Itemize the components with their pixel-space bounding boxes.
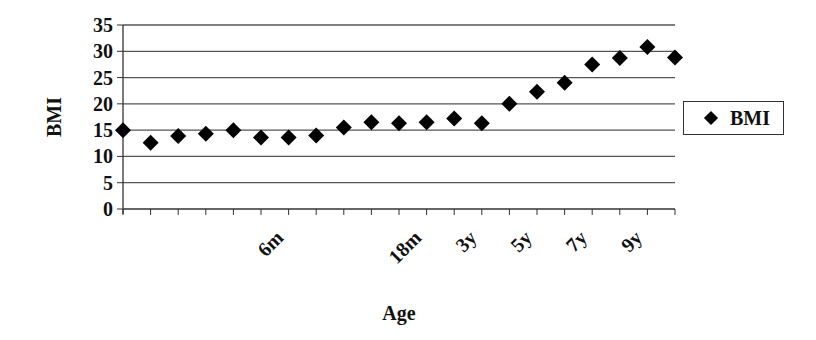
y-tick-label: 25 — [93, 67, 113, 89]
x-tick-label: 18m — [384, 226, 426, 268]
data-point-diamond — [612, 50, 628, 66]
data-point-diamond — [198, 126, 214, 142]
y-axis-title: BMI — [43, 97, 65, 137]
data-point-diamond — [419, 114, 435, 130]
x-tick-label: 5y — [506, 226, 536, 256]
y-tick-label: 10 — [93, 145, 113, 167]
data-point-diamond — [391, 115, 407, 131]
y-tick-label: 20 — [93, 93, 113, 115]
data-point-diamond — [143, 135, 159, 151]
data-point-diamond — [667, 50, 683, 66]
y-tick-label: 30 — [93, 40, 113, 62]
data-point-diamond — [501, 96, 517, 112]
gridlines — [123, 25, 675, 183]
y-tick-label: 15 — [93, 119, 113, 141]
y-tick-labels: 05101520253035 — [93, 14, 113, 220]
data-point-diamond — [529, 84, 545, 100]
x-tick-labels: 6m18m3y5y7y9y — [253, 226, 647, 268]
data-point-diamond — [253, 130, 269, 146]
legend: BMI — [683, 101, 784, 135]
y-tick-label: 35 — [93, 14, 113, 36]
data-point-diamond — [639, 39, 655, 55]
x-tick-label: 6m — [253, 226, 288, 261]
data-point-diamond — [474, 115, 490, 131]
data-point-diamond — [115, 122, 131, 138]
y-tick-label: 5 — [103, 172, 113, 194]
data-point-diamond — [225, 122, 241, 138]
data-point-diamond — [363, 114, 379, 130]
data-points — [115, 39, 683, 151]
x-tick-label: 3y — [451, 226, 481, 256]
data-point-diamond — [446, 111, 462, 127]
data-point-diamond — [584, 56, 600, 72]
x-tick-label: 7y — [561, 226, 591, 256]
y-tick-label: 0 — [103, 198, 113, 220]
data-point-diamond — [281, 130, 297, 146]
diamond-marker-icon — [704, 111, 718, 125]
x-axis-title: Age — [382, 302, 415, 325]
legend-label: BMI — [730, 107, 770, 130]
bmi-chart: 05101520253035 6m18m3y5y7y9y BMI Age — [0, 0, 816, 340]
data-point-diamond — [336, 120, 352, 136]
x-tick-label: 9y — [617, 226, 647, 256]
